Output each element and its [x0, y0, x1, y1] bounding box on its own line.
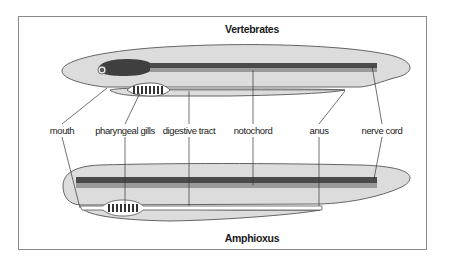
label-notochord: notochord [233, 125, 274, 136]
vertebrate-body [62, 45, 410, 96]
nerve-cord-amphioxus [76, 177, 377, 183]
title-vertebrates: Vertebrates [225, 23, 279, 35]
title-amphioxus: Amphioxus [225, 232, 279, 244]
nerve-cord-vertebrate [150, 63, 377, 68]
label-digestive-tract: digestive tract [162, 125, 217, 136]
amphioxus-body [63, 164, 410, 222]
notochord-amphioxus [76, 183, 377, 188]
label-pharyngeal-gills: pharyngeal gills [94, 125, 156, 136]
notochord-vertebrate [150, 68, 377, 72]
label-nerve-cord: nerve cord [361, 125, 404, 136]
label-mouth: mouth [49, 125, 75, 136]
label-anus: anus [308, 125, 329, 136]
